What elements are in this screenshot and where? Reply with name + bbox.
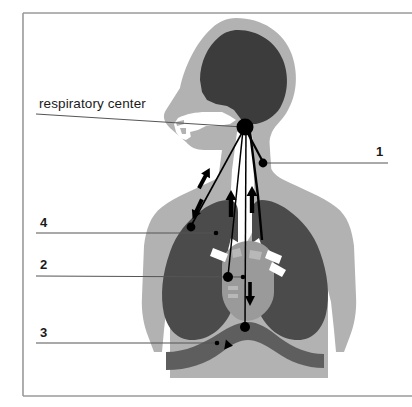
label-respiratory-center: respiratory center [39, 96, 146, 111]
hub-respiratory-center-marker [237, 119, 254, 136]
marker-3-tip-dot [215, 341, 220, 346]
marker-2-tip-dot [241, 275, 246, 280]
respiratory-control-diagram [0, 0, 412, 407]
marker-2-dot [223, 272, 233, 282]
label-number-4: 4 [40, 215, 47, 230]
heart-chamber-marking-3 [228, 286, 238, 290]
label-number-1: 1 [376, 144, 383, 159]
marker-1-dot [259, 159, 268, 168]
label-number-3: 3 [40, 325, 47, 340]
marker-4-tip-dot [214, 231, 219, 236]
marker-4-dot [187, 223, 196, 232]
label-number-2: 2 [40, 257, 47, 272]
marker-3-dot [240, 322, 250, 332]
heart-chamber-marking-4 [228, 294, 238, 298]
